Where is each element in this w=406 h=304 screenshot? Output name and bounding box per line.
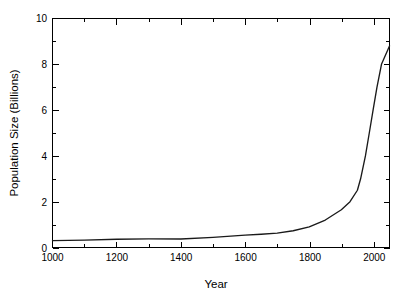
plot-area-background (52, 18, 390, 248)
x-tick-label-1400: 1400 (170, 252, 193, 263)
y-tick-label-10: 10 (36, 13, 48, 24)
y-tick-label-4: 4 (41, 151, 47, 162)
y-tick-label-6: 6 (41, 105, 47, 116)
x-tick-label-1800: 1800 (299, 252, 322, 263)
x-tick-label-1000: 1000 (41, 252, 64, 263)
y-axis-title: Population Size (Billions) (8, 69, 20, 196)
x-tick-label-1600: 1600 (234, 252, 257, 263)
x-tick-label-1200: 1200 (106, 252, 129, 263)
population-line-chart: 0 2 4 6 8 10 1000 1200 1400 1600 1800 20… (0, 0, 406, 304)
x-axis-title: Year (204, 278, 227, 290)
x-tick-label-2000: 2000 (363, 252, 386, 263)
y-tick-label-2: 2 (41, 197, 47, 208)
y-tick-label-8: 8 (41, 59, 47, 70)
chart-figure: 0 2 4 6 8 10 1000 1200 1400 1600 1800 20… (0, 0, 406, 304)
